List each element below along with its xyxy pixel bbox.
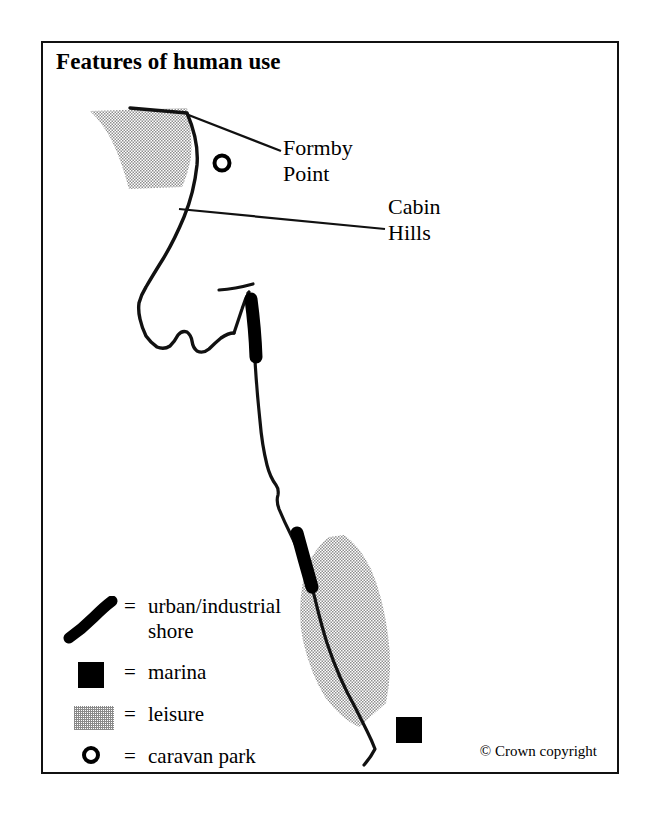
legend-swatch-cell-caravan [62, 744, 124, 784]
map-label-formby-point-line2: Point [283, 161, 353, 187]
legend-swatch-cell-leisure [62, 700, 124, 744]
legend-item-caravan-park: = caravan park [62, 744, 392, 784]
legend-swatch-cell-marina [62, 654, 124, 700]
marina-symbol [396, 717, 422, 743]
legend-equals-urban: = [124, 594, 148, 619]
map-label-formby-point-line1: Formby [283, 135, 353, 161]
legend-label-caravan: caravan park [148, 744, 256, 769]
legend-item-leisure: = leisure [62, 700, 392, 744]
legend-label-marina: marina [148, 660, 206, 685]
map-label-cabin-hills-line2: Hills [388, 220, 441, 246]
marina-icon [78, 662, 104, 688]
legend-label-urban: urban/industrial shore [148, 594, 281, 644]
legend-swatch-cell-urban [62, 592, 124, 654]
legend-label-leisure: leisure [148, 702, 204, 727]
caravan-park-icon [82, 746, 100, 764]
leader-line-formby-point [186, 114, 281, 151]
legend-item-marina: = marina [62, 654, 392, 700]
map-label-cabin-hills: Cabin Hills [388, 194, 441, 246]
leader-line-cabin-hills [179, 209, 385, 229]
legend-label-urban-line1: urban/industrial [148, 594, 281, 619]
copyright-notice: © Crown copyright [480, 743, 597, 760]
legend-equals-leisure: = [124, 702, 148, 727]
leisure-zone-north [90, 108, 192, 189]
urban-industrial-shore-icon [62, 596, 120, 644]
map-label-formby-point: Formby Point [283, 135, 353, 187]
legend-item-urban-industrial-shore: = urban/industrial shore [62, 592, 392, 654]
legend-equals-marina: = [124, 660, 148, 685]
leisure-icon [74, 706, 114, 730]
map-label-cabin-hills-line1: Cabin [388, 194, 441, 220]
map-figure: Features of human use [0, 0, 653, 817]
legend-label-urban-line2: shore [148, 619, 281, 644]
urban-shore-segment-north [251, 299, 256, 357]
legend-equals-caravan: = [124, 744, 148, 769]
map-legend: = urban/industrial shore = marina = leis… [62, 592, 392, 784]
caravan-park-symbol [215, 156, 230, 171]
urban-shore-segment-south [297, 533, 312, 587]
estuary-spit [219, 284, 253, 290]
